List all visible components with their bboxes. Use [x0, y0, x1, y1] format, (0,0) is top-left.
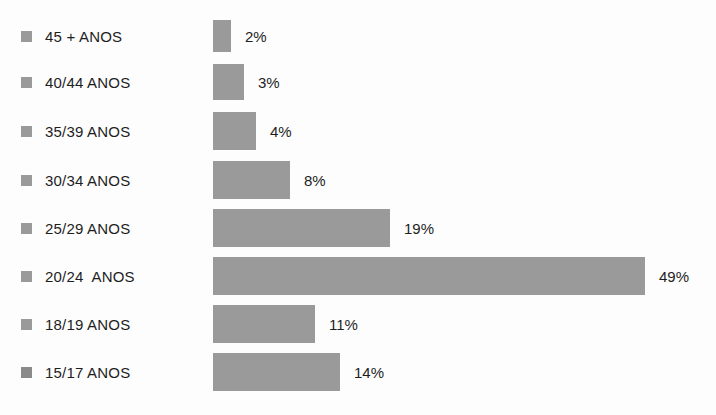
chart-row: 40/44 ANOS 3% — [0, 64, 716, 100]
legend-entry-label: 45 + ANOS — [45, 28, 122, 45]
legend-entry-label: 30/34 ANOS — [45, 172, 130, 189]
legend-swatch-icon — [21, 31, 32, 42]
legend-entry-label: 18/19 ANOS — [45, 316, 130, 333]
bar-cell: 2% — [213, 20, 716, 52]
legend-entry: 20/24 ANOS — [0, 268, 213, 285]
chart-row: 18/19 ANOS 11% — [0, 305, 716, 343]
legend-entry: 35/39 ANOS — [0, 123, 213, 140]
bar-value-label: 14% — [354, 364, 384, 381]
legend-swatch-icon — [21, 367, 32, 378]
bar — [213, 257, 645, 295]
horizontal-bar-chart: 45 + ANOS 2% 40/44 ANOS 3% 35/39 ANOS 4% — [0, 0, 716, 415]
bar — [213, 64, 244, 100]
bar-value-label: 2% — [245, 28, 267, 45]
chart-row: 15/17 ANOS 14% — [0, 353, 716, 391]
bar-value-label: 49% — [659, 268, 689, 285]
legend-entry-label: 15/17 ANOS — [45, 364, 130, 381]
bar-cell: 11% — [213, 305, 716, 343]
legend-swatch-icon — [21, 271, 32, 282]
chart-row: 20/24 ANOS 49% — [0, 257, 716, 295]
legend-entry-label: 40/44 ANOS — [45, 74, 130, 91]
bar-cell: 19% — [213, 209, 716, 247]
legend-swatch-icon — [21, 319, 32, 330]
bar — [213, 112, 256, 150]
legend-entry: 25/29 ANOS — [0, 220, 213, 237]
legend-entry: 45 + ANOS — [0, 28, 213, 45]
bar — [213, 353, 340, 391]
bar-value-label: 11% — [329, 316, 358, 333]
bar-cell: 14% — [213, 353, 716, 391]
chart-row: 35/39 ANOS 4% — [0, 112, 716, 150]
bar-value-label: 8% — [304, 172, 326, 189]
bar-cell: 8% — [213, 161, 716, 199]
bar-value-label: 4% — [270, 123, 292, 140]
bar — [213, 20, 231, 52]
bar-value-label: 3% — [258, 74, 280, 91]
bar-cell: 4% — [213, 112, 716, 150]
bar — [213, 305, 315, 343]
legend-entry: 30/34 ANOS — [0, 172, 213, 189]
chart-row: 45 + ANOS 2% — [0, 20, 716, 52]
legend-entry: 15/17 ANOS — [0, 364, 213, 381]
chart-row: 30/34 ANOS 8% — [0, 161, 716, 199]
bar-cell: 3% — [213, 64, 716, 100]
legend-entry-label: 35/39 ANOS — [45, 123, 130, 140]
legend-entry-label: 25/29 ANOS — [45, 220, 130, 237]
legend-swatch-icon — [21, 175, 32, 186]
legend-entry: 18/19 ANOS — [0, 316, 213, 333]
bar — [213, 209, 390, 247]
legend-entry-label: 20/24 ANOS — [45, 268, 135, 285]
legend-swatch-icon — [21, 223, 32, 234]
legend-entry: 40/44 ANOS — [0, 74, 213, 91]
legend-swatch-icon — [21, 126, 32, 137]
bar — [213, 161, 290, 199]
chart-row: 25/29 ANOS 19% — [0, 209, 716, 247]
legend-swatch-icon — [21, 77, 32, 88]
bar-value-label: 19% — [404, 220, 434, 237]
bar-cell: 49% — [213, 257, 716, 295]
